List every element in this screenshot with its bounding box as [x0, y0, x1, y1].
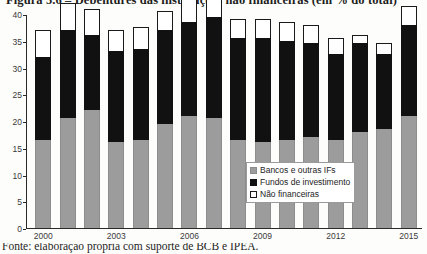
y-axis-tick	[23, 69, 26, 70]
bar-segment-bancos-e-outras-ifs	[84, 110, 100, 228]
plot-area	[26, 15, 422, 229]
bar-segment-n-o-financeiras	[328, 38, 344, 54]
legend-item: Não financeiras	[250, 189, 350, 199]
bar-segment-n-o-financeiras	[279, 22, 295, 41]
bar-2002	[84, 9, 100, 228]
x-axis-tick-label: 2009	[253, 231, 272, 241]
x-axis-tick-label: 2012	[326, 231, 345, 241]
y-axis-labels: 0510152025303540	[0, 15, 22, 229]
bar-2014	[376, 43, 392, 228]
legend-item-label: Bancos e outras IFs	[260, 165, 336, 175]
bar-segment-fundos-de-investimento	[133, 49, 149, 140]
bar-segment-n-o-financeiras	[60, 3, 76, 30]
bar-segment-fundos-de-investimento	[60, 30, 76, 118]
bar-segment-bancos-e-outras-ifs	[230, 140, 246, 228]
bar-segment-bancos-e-outras-ifs	[206, 118, 222, 228]
black-swatch	[250, 179, 257, 186]
bar-segment-fundos-de-investimento	[108, 51, 124, 142]
x-axis-tick-label: 2015	[399, 231, 418, 241]
bar-segment-fundos-de-investimento	[303, 43, 319, 137]
bar-2000	[35, 30, 51, 228]
x-axis-line	[26, 228, 422, 229]
bar-segment-n-o-financeiras	[376, 43, 392, 54]
bar-segment-fundos-de-investimento	[279, 41, 295, 140]
y-axis-tick	[23, 149, 26, 150]
bar-segment-bancos-e-outras-ifs	[401, 116, 417, 228]
bar-segment-bancos-e-outras-ifs	[60, 118, 76, 228]
bar-segment-n-o-financeiras	[84, 9, 100, 36]
bar-segment-bancos-e-outras-ifs	[133, 140, 149, 228]
figure-root: Figura 5.6 – Debêntures das instituições…	[0, 0, 427, 254]
bar-segment-bancos-e-outras-ifs	[108, 142, 124, 228]
y-axis-tick-label: 0	[17, 224, 22, 234]
bar-segment-n-o-financeiras	[157, 11, 173, 30]
bar-segment-n-o-financeiras	[230, 19, 246, 38]
y-axis-tick-label: 5	[17, 197, 22, 207]
x-axis-tick-label: 2003	[107, 231, 126, 241]
bar-2004	[133, 27, 149, 228]
bar-segment-fundos-de-investimento	[230, 38, 246, 140]
bar-segment-bancos-e-outras-ifs	[376, 129, 392, 228]
y-axis-tick	[23, 229, 26, 230]
bar-2001	[60, 3, 76, 228]
gray-swatch	[250, 167, 257, 174]
bar-segment-fundos-de-investimento	[35, 57, 51, 140]
bar-2015	[401, 6, 417, 228]
figure-source: Fonte: elaboração própria com suporte de…	[2, 243, 258, 252]
bar-segment-fundos-de-investimento	[84, 35, 100, 110]
y-axis-tick	[23, 122, 26, 123]
bar-2007	[206, 0, 222, 228]
bar-segment-n-o-financeiras	[35, 30, 51, 57]
bar-segment-n-o-financeiras	[108, 30, 124, 51]
y-axis-tick	[23, 202, 26, 203]
bar-segment-fundos-de-investimento	[255, 38, 271, 142]
bars-container	[27, 15, 422, 228]
bar-segment-fundos-de-investimento	[206, 17, 222, 119]
bar-segment-n-o-financeiras	[352, 35, 368, 43]
y-axis-tick-label: 25	[13, 90, 22, 100]
bar-segment-n-o-financeiras	[181, 0, 197, 22]
y-axis-tick	[23, 176, 26, 177]
bar-2006	[181, 0, 197, 228]
chart-legend: Bancos e outras IFsFundos de investiment…	[246, 162, 355, 203]
y-axis-tick-label: 10	[13, 171, 22, 181]
bar-segment-n-o-financeiras	[401, 6, 417, 25]
bar-segment-fundos-de-investimento	[328, 54, 344, 140]
bar-segment-fundos-de-investimento	[376, 54, 392, 129]
bar-segment-fundos-de-investimento	[352, 43, 368, 131]
bar-segment-fundos-de-investimento	[181, 22, 197, 116]
bar-2003	[108, 30, 124, 228]
bar-segment-fundos-de-investimento	[401, 25, 417, 116]
x-axis-tick-label: 2000	[34, 231, 53, 241]
bar-segment-n-o-financeiras	[133, 27, 149, 48]
white-swatch	[250, 191, 257, 198]
bar-segment-bancos-e-outras-ifs	[181, 116, 197, 228]
bar-segment-n-o-financeiras	[303, 25, 319, 44]
y-axis-tick	[23, 15, 26, 16]
figure-source-strip: Fonte: elaboração própria com suporte de…	[0, 243, 427, 254]
y-axis-tick-label: 15	[13, 144, 22, 154]
legend-item: Bancos e outras IFs	[250, 165, 350, 175]
legend-item-label: Não financeiras	[260, 189, 319, 199]
legend-item-label: Fundos de investimento	[260, 177, 350, 187]
bar-segment-n-o-financeiras	[206, 0, 222, 17]
y-axis-tick	[23, 95, 26, 96]
y-axis-tick-label: 20	[13, 117, 22, 127]
bar-2005	[157, 11, 173, 228]
y-axis-tick-label: 40	[13, 10, 22, 20]
y-axis-tick-label: 30	[13, 64, 22, 74]
bar-segment-n-o-financeiras	[255, 19, 271, 38]
bar-2008	[230, 19, 246, 228]
y-axis-tick-label: 35	[13, 37, 22, 47]
y-axis-tick	[23, 42, 26, 43]
bar-segment-fundos-de-investimento	[157, 30, 173, 124]
x-axis-tick-label: 2006	[180, 231, 199, 241]
bar-segment-bancos-e-outras-ifs	[35, 140, 51, 228]
legend-item: Fundos de investimento	[250, 177, 350, 187]
bar-segment-bancos-e-outras-ifs	[157, 124, 173, 228]
